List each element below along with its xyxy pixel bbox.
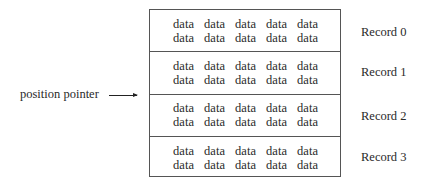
data-cell: data	[297, 73, 328, 88]
data-cell: data	[266, 59, 297, 74]
data-cell: data	[204, 73, 235, 88]
data-line: datadatadatadatadata	[173, 101, 328, 116]
data-cell: data	[204, 158, 235, 173]
data-cell: data	[235, 101, 266, 116]
record-row-3: datadatadatadatadata datadatadatadatadat…	[150, 136, 340, 178]
data-cell: data	[297, 17, 328, 32]
data-cell: data	[235, 158, 266, 173]
data-line: datadatadatadatadata	[173, 158, 328, 173]
data-cell: data	[173, 31, 204, 46]
record-label-1: Record 1	[361, 65, 406, 80]
data-cell: data	[204, 115, 235, 130]
data-cell: data	[173, 59, 204, 74]
data-cell: data	[204, 101, 235, 116]
data-cell: data	[297, 31, 328, 46]
data-cell: data	[204, 59, 235, 74]
data-cell: data	[173, 144, 204, 159]
data-cell: data	[173, 17, 204, 32]
data-cell: data	[266, 144, 297, 159]
data-cell: data	[266, 115, 297, 130]
record-table: datadatadatadatadata datadatadatadatadat…	[149, 9, 341, 177]
record-row-0: datadatadatadatadata datadatadatadatadat…	[150, 10, 340, 52]
data-cell: data	[297, 158, 328, 173]
data-cell: data	[204, 31, 235, 46]
data-cell: data	[266, 101, 297, 116]
data-cell: data	[297, 144, 328, 159]
data-line: datadatadatadatadata	[173, 59, 328, 74]
data-cell: data	[235, 73, 266, 88]
data-cell: data	[297, 59, 328, 74]
data-line: datadatadatadatadata	[173, 115, 328, 130]
data-line: datadatadatadatadata	[173, 144, 328, 159]
data-cell: data	[173, 158, 204, 173]
data-cell: data	[173, 73, 204, 88]
record-label-2: Record 2	[361, 109, 406, 124]
data-cell: data	[235, 59, 266, 74]
data-cell: data	[173, 101, 204, 116]
data-cell: data	[266, 158, 297, 173]
data-cell: data	[266, 31, 297, 46]
data-cell: data	[266, 17, 297, 32]
record-row-2: datadatadatadatadata datadatadatadatadat…	[150, 94, 340, 136]
data-cell: data	[266, 73, 297, 88]
data-cell: data	[173, 115, 204, 130]
data-line: datadatadatadatadata	[173, 17, 328, 32]
data-cell: data	[235, 17, 266, 32]
data-line: datadatadatadatadata	[173, 73, 328, 88]
data-cell: data	[235, 31, 266, 46]
data-cell: data	[297, 101, 328, 116]
record-label-0: Record 0	[361, 25, 406, 40]
pointer-arrow-icon	[109, 95, 137, 96]
data-line: datadatadatadatadata	[173, 31, 328, 46]
data-cell: data	[235, 115, 266, 130]
data-cell: data	[204, 144, 235, 159]
data-cell: data	[204, 17, 235, 32]
record-row-1: datadatadatadatadata datadatadatadatadat…	[150, 51, 340, 93]
position-pointer-label: position pointer	[20, 87, 99, 102]
data-cell: data	[297, 115, 328, 130]
record-label-3: Record 3	[361, 150, 406, 165]
data-cell: data	[235, 144, 266, 159]
